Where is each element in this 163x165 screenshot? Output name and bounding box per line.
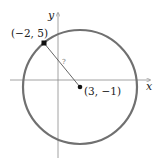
radius-label: ? <box>62 58 66 66</box>
center-point-marker <box>78 85 83 90</box>
y-axis-label: y <box>47 9 55 22</box>
center-label: (3, −1) <box>84 85 121 97</box>
point-on-circle-marker <box>42 41 47 46</box>
circle-diagram: y x (−2, 5) (3, −1) ? <box>0 0 163 165</box>
point-on-circle-label: (−2, 5) <box>11 27 48 39</box>
x-axis-label: x <box>146 80 153 93</box>
